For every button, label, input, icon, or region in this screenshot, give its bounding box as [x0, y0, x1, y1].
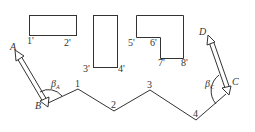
- label-point-1: 1: [75, 78, 80, 89]
- label-b: B: [35, 100, 41, 111]
- arrow-a-b: [15, 50, 49, 107]
- label-a: A: [9, 41, 17, 52]
- label-point-4: 4: [193, 108, 198, 119]
- label-6p: 6': [150, 37, 157, 48]
- building-l-shape: [137, 16, 184, 59]
- label-1p: 1': [27, 35, 34, 46]
- label-8p: 8': [181, 57, 188, 68]
- label-2p: 2': [64, 37, 71, 48]
- label-5p: 5': [128, 37, 135, 48]
- label-4p: 4': [118, 63, 125, 74]
- label-3p: 3': [83, 63, 90, 74]
- building-rect-2: [94, 16, 118, 68]
- label-beta-a: βA: [50, 78, 60, 90]
- building-rect-1: [30, 16, 77, 36]
- diagram-canvas: 1' 2' 3' 4' 5' 6' 7' 8' 1 2 3 4 A B C D …: [0, 0, 255, 132]
- label-c: C: [232, 76, 239, 87]
- label-point-2: 2: [111, 99, 116, 110]
- label-point-3: 3: [147, 79, 152, 90]
- label-beta-c: βC: [204, 78, 215, 90]
- label-d: D: [198, 26, 207, 37]
- label-7p: 7': [158, 57, 165, 68]
- traverse-line: [46, 89, 226, 120]
- traverse-diagram: 1' 2' 3' 4' 5' 6' 7' 8' 1 2 3 4 A B C D …: [0, 0, 255, 132]
